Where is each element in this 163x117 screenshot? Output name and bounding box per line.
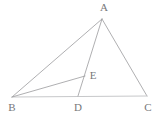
vertex-label-b: B [8,101,15,113]
vertex-label-c: C [144,101,151,113]
vertex-label-d: D [74,101,82,113]
segment-ab [12,19,102,97]
segment-be [12,76,85,97]
segment-ac [102,19,147,96]
vertex-label-e: E [90,69,97,81]
geometry-figure: A B C D E [0,0,163,117]
segment-group [12,19,147,97]
vertex-label-a: A [100,1,108,13]
segment-ad [78,19,102,96]
geometry-canvas: A B C D E [0,0,163,117]
segment-bc [12,96,147,97]
